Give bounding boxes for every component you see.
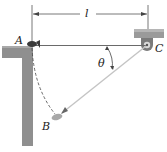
ledge-wall — [2, 46, 33, 146]
length-dimension — [32, 5, 148, 46]
diagram: l A C B θ — [0, 0, 167, 152]
point-b-label: B — [42, 121, 50, 132]
point-a-label: A — [15, 35, 23, 46]
length-label: l — [85, 8, 89, 19]
body-b-icon — [51, 113, 63, 122]
trajectory-path — [32, 48, 55, 114]
diagram-canvas — [0, 0, 167, 152]
point-c-label: C — [155, 43, 163, 54]
angle-theta-arc — [105, 46, 114, 70]
angle-theta-label: θ — [98, 58, 105, 69]
